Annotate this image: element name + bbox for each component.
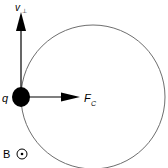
centripetal-force-arrow (28, 93, 80, 102)
velocity-arrow (16, 12, 26, 90)
field-out-of-page-icon (17, 149, 27, 159)
velocity-label: v (15, 2, 21, 13)
charge-label: q (2, 92, 9, 104)
field-label: B (3, 148, 10, 160)
charged-particle (12, 87, 30, 107)
force-subscript: C (91, 100, 97, 107)
velocity-subscript: ⊥ (22, 8, 27, 14)
diagram-canvas: v ⊥ F C q B (0, 0, 168, 168)
